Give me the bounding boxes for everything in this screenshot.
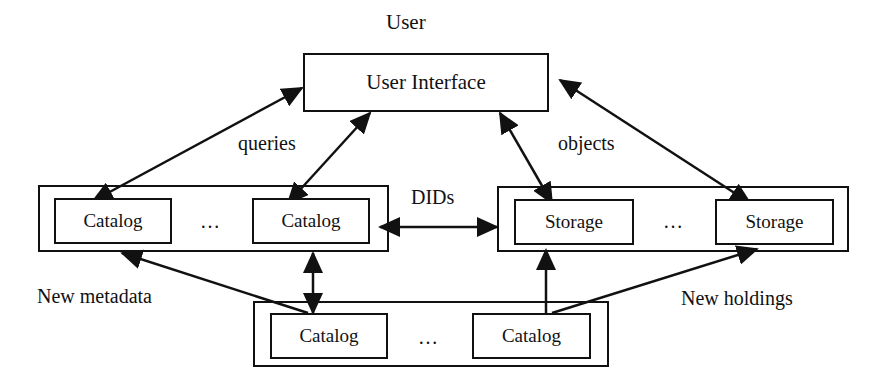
user-interface-label: User Interface xyxy=(366,70,486,95)
new-metadata-label: New metadata xyxy=(37,285,152,308)
catalog-node: Catalog xyxy=(54,198,172,244)
queries-label: queries xyxy=(238,132,296,155)
user-interface-box: User Interface xyxy=(303,53,549,112)
catalog-label: Catalog xyxy=(502,325,561,347)
storage-node: Storage xyxy=(514,199,634,245)
catalog-label: Catalog xyxy=(281,210,340,232)
user-label: User xyxy=(386,10,426,35)
catalog-node: Catalog xyxy=(252,198,370,244)
storage-label: Storage xyxy=(745,211,803,233)
objects-label: objects xyxy=(558,132,615,155)
storage-node: Storage xyxy=(715,199,834,245)
catalog-label: Catalog xyxy=(299,325,358,347)
catalog-node: Catalog xyxy=(472,313,591,359)
new-holdings-label: New holdings xyxy=(681,287,793,310)
catalog-label: Catalog xyxy=(83,210,142,232)
ellipsis: … xyxy=(200,210,221,233)
ellipsis: … xyxy=(663,210,684,233)
dids-label: DIDs xyxy=(411,186,454,209)
storage-label: Storage xyxy=(545,211,603,233)
catalog-node: Catalog xyxy=(270,313,388,359)
ellipsis: … xyxy=(418,326,439,349)
